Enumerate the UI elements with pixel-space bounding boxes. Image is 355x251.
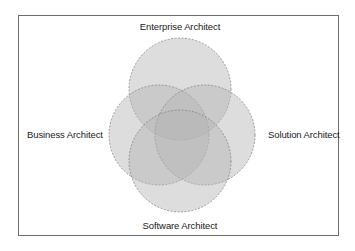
software-architect-label: Software Architect xyxy=(143,220,218,231)
venn-diagram xyxy=(0,0,355,251)
business-architect-label: Business Architect xyxy=(27,129,103,140)
solution-architect-label: Solution Architect xyxy=(268,129,340,140)
enterprise-architect-label: Enterprise Architect xyxy=(140,21,220,32)
software-architect-circle xyxy=(129,110,231,212)
